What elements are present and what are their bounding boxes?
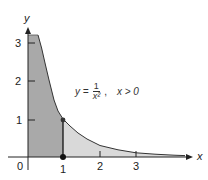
y-axis-arrow-icon: [25, 27, 31, 34]
y-tick-label-2: 2: [15, 76, 21, 87]
y-tick-label-3: 3: [15, 38, 21, 49]
y-tick-label-1: 1: [16, 115, 22, 126]
x-axis-arrow-icon: [186, 154, 193, 160]
y-axis-label: y: [24, 13, 30, 24]
point-1-0: [60, 154, 66, 160]
point-1-1: [61, 118, 66, 123]
equation-condition: x > 0: [117, 86, 139, 97]
x-axis-label: x: [197, 151, 203, 162]
x-tick-label-2: 2: [97, 161, 103, 172]
x-tick-label-3: 3: [133, 161, 139, 172]
equation-lhs: y =: [75, 86, 89, 97]
equation-comma: ,: [104, 86, 107, 97]
equation-annotation: y = 1 x² , x > 0: [75, 82, 139, 101]
origin-label: 0: [17, 161, 23, 172]
x-tick-label-1: 1: [60, 164, 66, 175]
equation-fraction: 1 x²: [93, 82, 101, 101]
shaded-region-0-to-1: [28, 35, 63, 157]
equation-denominator: x²: [93, 92, 101, 101]
